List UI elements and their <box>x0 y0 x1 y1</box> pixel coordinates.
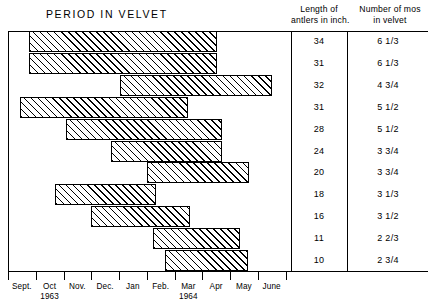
x-axis-tick <box>230 272 231 280</box>
table-cell-months-in-velvet: 3 1/3 <box>347 189 429 199</box>
x-axis-tick <box>119 272 120 280</box>
table-cell-antler-length: 31 <box>291 102 347 112</box>
velvet-period-bar <box>29 31 218 52</box>
velvet-period-bar <box>153 228 240 249</box>
chart-title: PERIOD IN VELVET <box>46 8 168 20</box>
x-axis-tick <box>91 272 92 280</box>
velvet-period-bar <box>91 206 190 227</box>
x-axis-tick <box>36 272 37 280</box>
velvet-period-bar <box>66 119 221 140</box>
table-cell-months-in-velvet: 5 1/2 <box>347 102 429 112</box>
column-header-months-velvet-line2: in velvet <box>347 15 433 26</box>
table-cell-months-in-velvet: 6 1/3 <box>347 58 429 68</box>
table-cell-months-in-velvet: 5 1/2 <box>347 124 429 134</box>
x-axis-tick <box>202 272 203 280</box>
x-axis-tick <box>64 272 65 280</box>
column-header-months-velvet-line1: Number of mos <box>359 4 420 14</box>
table-cell-months-in-velvet: 2 2/3 <box>347 233 429 243</box>
table-cell-antler-length: 20 <box>291 167 347 177</box>
x-axis-tick <box>175 272 176 280</box>
x-axis-tick <box>286 272 287 280</box>
velvet-period-bar <box>29 53 218 74</box>
x-axis-tick <box>147 272 148 280</box>
table-cell-antler-length: 16 <box>291 211 347 221</box>
velvet-period-bar <box>120 75 272 96</box>
table-cell-antler-length: 11 <box>291 233 347 243</box>
table-cell-antler-length: 28 <box>291 124 347 134</box>
table-cell-months-in-velvet: 3 1/2 <box>347 211 429 221</box>
table-cell-months-in-velvet: 6 1/3 <box>347 36 429 46</box>
velvet-period-bar <box>165 250 248 271</box>
x-axis-tick <box>258 272 259 280</box>
velvet-period-figure: PERIOD IN VELVET Length of antlers in in… <box>0 0 433 303</box>
velvet-period-bar <box>147 162 250 183</box>
column-header-antler-length-line1: Length of <box>300 4 338 14</box>
x-axis-year-1963: 1963 <box>30 292 70 301</box>
table-cell-antler-length: 24 <box>291 146 347 156</box>
x-axis-year-1964: 1964 <box>168 292 208 301</box>
column-header-antler-length: Length of antlers in inch. <box>291 4 347 26</box>
table-cell-antler-length: 34 <box>291 36 347 46</box>
table-cell-months-in-velvet: 2 3/4 <box>347 255 429 265</box>
table-cell-antler-length: 10 <box>291 255 347 265</box>
table-cell-antler-length: 31 <box>291 58 347 68</box>
velvet-period-bar <box>20 97 188 118</box>
table-cell-antler-length: 32 <box>291 80 347 90</box>
column-header-months-velvet: Number of mos in velvet <box>347 4 433 26</box>
table-cell-months-in-velvet: 4 3/4 <box>347 80 429 90</box>
velvet-period-bar <box>55 184 155 205</box>
plot-area <box>0 31 291 272</box>
x-axis-month-label: June <box>252 282 292 291</box>
table-cell-months-in-velvet: 3 3/4 <box>347 146 429 156</box>
x-axis-tick <box>8 272 9 280</box>
table-cell-months-in-velvet: 3 3/4 <box>347 167 429 177</box>
column-header-antler-length-line2: antlers in inch. <box>291 15 347 26</box>
table-cell-antler-length: 18 <box>291 189 347 199</box>
velvet-period-bar <box>111 141 222 162</box>
